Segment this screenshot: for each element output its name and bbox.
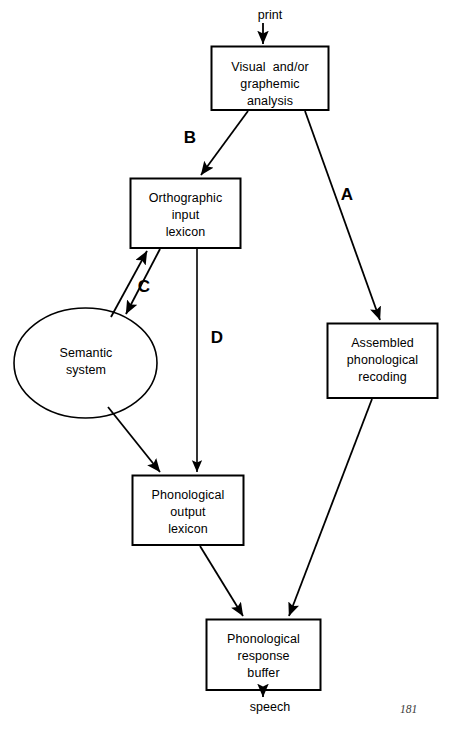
diagram-graphics <box>0 0 459 737</box>
node-phonological-output-lexicon <box>133 476 244 546</box>
edge-semantic-to-phonological-output <box>108 407 160 472</box>
figure-canvas: print Visual and/or graphemic analysis O… <box>0 0 459 737</box>
node-semantic-system <box>14 308 157 418</box>
node-visual-graphemic-analysis <box>212 47 329 111</box>
edge-phonological-output-to-buffer <box>200 546 243 616</box>
edge-visual-to-orthographic <box>201 111 248 175</box>
node-orthographic-input-lexicon <box>131 179 241 249</box>
node-assembled-phonological-recoding <box>328 324 438 399</box>
edge-visual-to-assembled <box>305 111 380 320</box>
node-phonological-response-buffer <box>207 620 321 691</box>
edge-assembled-to-buffer <box>289 399 372 616</box>
